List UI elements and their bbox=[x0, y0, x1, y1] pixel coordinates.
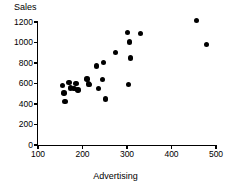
data-point bbox=[204, 42, 209, 47]
y-tick-label: 1000 bbox=[1, 38, 33, 47]
x-tick-label: 100 bbox=[18, 150, 58, 159]
data-point bbox=[73, 81, 78, 86]
y-tick-label: 600 bbox=[1, 79, 33, 88]
x-axis-title: Advertising bbox=[0, 172, 231, 181]
data-point bbox=[62, 99, 67, 104]
y-axis-tick-labels: 020040060080010001200 bbox=[0, 0, 33, 187]
data-point bbox=[127, 39, 132, 44]
data-point bbox=[94, 63, 99, 68]
y-tick bbox=[34, 83, 38, 84]
x-tick-label: 200 bbox=[63, 150, 103, 159]
data-point bbox=[126, 82, 131, 87]
y-tick bbox=[34, 62, 38, 63]
data-point bbox=[128, 55, 133, 60]
y-tick-label: 1200 bbox=[1, 18, 33, 27]
y-tick-label: 800 bbox=[1, 59, 33, 68]
data-point bbox=[101, 60, 106, 65]
x-tick-label: 400 bbox=[152, 150, 192, 159]
data-point bbox=[60, 83, 65, 88]
y-tick-label: 0 bbox=[1, 141, 33, 150]
y-tick-label: 200 bbox=[1, 120, 33, 129]
data-point bbox=[194, 18, 199, 23]
x-tick-label: 300 bbox=[107, 150, 147, 159]
data-point bbox=[138, 31, 143, 36]
scatter-plot: Sales Advertising 020040060080010001200 … bbox=[0, 0, 231, 187]
y-tick bbox=[34, 103, 38, 104]
data-point bbox=[103, 96, 108, 101]
data-point bbox=[87, 82, 92, 87]
y-tick bbox=[34, 42, 38, 43]
data-point bbox=[113, 50, 118, 55]
plot-area bbox=[38, 22, 216, 145]
data-point bbox=[125, 30, 130, 35]
x-tick-label: 500 bbox=[196, 150, 231, 159]
y-tick-label: 400 bbox=[1, 100, 33, 109]
data-point bbox=[100, 77, 105, 82]
data-point bbox=[75, 87, 80, 92]
y-tick bbox=[34, 21, 38, 22]
data-point bbox=[61, 90, 66, 95]
data-point bbox=[66, 80, 71, 85]
y-tick bbox=[34, 124, 38, 125]
data-point bbox=[96, 86, 101, 91]
